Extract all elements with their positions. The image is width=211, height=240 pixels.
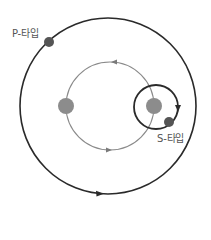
binary-orbit xyxy=(66,62,154,150)
star-right xyxy=(146,98,162,114)
p-type-planet xyxy=(44,37,54,47)
binary-orbit-arrow-bottom-icon xyxy=(106,148,112,153)
s-type-label: S-타입 xyxy=(157,134,184,144)
binary-orbit-arrow-top-icon xyxy=(111,60,117,65)
star-left xyxy=(58,98,74,114)
p-orbit-arrow-icon xyxy=(96,191,104,197)
s-orbit-arrow-icon xyxy=(175,105,181,112)
p-type-label: P-타입 xyxy=(12,29,39,39)
s-type-planet xyxy=(164,117,174,127)
